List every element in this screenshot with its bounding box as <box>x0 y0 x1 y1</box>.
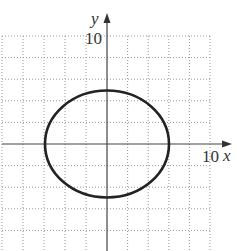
x-tick-label: 10 <box>202 147 219 166</box>
axes <box>2 18 226 251</box>
y-axis-arrow-icon <box>104 13 111 23</box>
y-axis-label: y <box>89 9 99 28</box>
y-tick-label: 10 <box>85 29 102 48</box>
ellipse-graph: y 10 10 x <box>0 0 237 251</box>
x-axis-label: x <box>222 146 231 165</box>
